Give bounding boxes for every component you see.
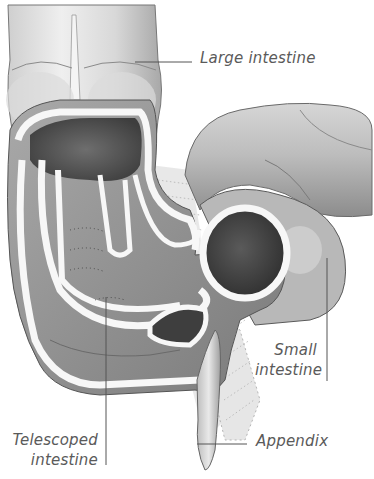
intussusception-illustration	[0, 0, 374, 479]
label-appendix: Appendix	[256, 431, 328, 451]
label-small-intestine: Small intestine	[255, 340, 317, 380]
label-large-intestine: Large intestine	[200, 48, 316, 68]
label-telescoped-intestine: Telescoped intestine	[2, 430, 98, 470]
